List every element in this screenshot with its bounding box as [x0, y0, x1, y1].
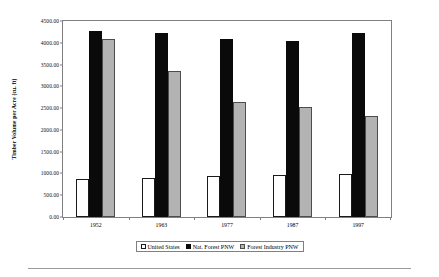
legend-item[interactable]: United States [140, 244, 179, 250]
bar-group: 1952 [63, 21, 129, 217]
legend-label: United States [147, 244, 179, 250]
bar-group-bars [194, 21, 260, 217]
bar[interactable] [76, 179, 89, 217]
x-axis-tick-label: 1987 [287, 222, 299, 228]
bar-group: 1963 [129, 21, 195, 217]
y-axis-tick-label: 3500.00 [41, 62, 59, 68]
legend-swatch-icon [186, 244, 191, 249]
y-axis-tick-label: 0.00 [49, 214, 59, 220]
x-axis-tick-mark [260, 217, 261, 220]
bar-group: 1987 [260, 21, 326, 217]
bar-group-bars [129, 21, 195, 217]
bar-group-bars [325, 21, 391, 217]
y-axis-tick-label: 1500.00 [41, 149, 59, 155]
y-axis-tick-label: 2500.00 [41, 105, 59, 111]
y-axis-tick-label: 500.00 [44, 192, 59, 198]
bar[interactable] [339, 174, 352, 217]
legend-swatch-icon [140, 244, 145, 249]
bar[interactable] [207, 176, 220, 217]
x-axis-tick-mark [63, 217, 64, 220]
x-axis-tick-label: 1977 [221, 222, 233, 228]
x-axis-tick-mark [129, 217, 130, 220]
bar[interactable] [365, 116, 378, 217]
x-axis-tick-label: 1963 [156, 222, 168, 228]
y-axis-title: Timber Volume per Acre (cu. ft) [11, 79, 17, 160]
chart-legend: United StatesNat. Forest PNWForest Indus… [135, 241, 303, 252]
bar[interactable] [89, 31, 102, 217]
legend-item[interactable]: Nat. Forest PNW [186, 244, 235, 250]
plot-area: 0.00500.001000.001500.002000.002500.0030… [62, 20, 392, 218]
bar[interactable] [273, 175, 286, 217]
legend-item[interactable]: Forest Industry PNW [240, 244, 298, 250]
bar[interactable] [286, 41, 299, 217]
bar-group: 1997 [325, 21, 391, 217]
legend-label: Nat. Forest PNW [193, 244, 235, 250]
x-axis-tick-mark [194, 217, 195, 220]
bar[interactable] [220, 39, 233, 217]
legend-label: Forest Industry PNW [247, 244, 298, 250]
y-axis-tick-label: 2000.00 [41, 127, 59, 133]
x-axis-tick-label: 1952 [90, 222, 102, 228]
plot-inner: 0.00500.001000.001500.002000.002500.0030… [63, 21, 391, 217]
x-axis-tick-mark [325, 217, 326, 220]
y-axis-tick-label: 3000.00 [41, 83, 59, 89]
bar[interactable] [352, 33, 365, 217]
bar-group: 1977 [194, 21, 260, 217]
bar[interactable] [168, 71, 181, 217]
y-axis-tick-label: 4000.00 [41, 40, 59, 46]
footer-divider [28, 268, 411, 269]
bar[interactable] [155, 33, 168, 217]
bar-group-bars [63, 21, 129, 217]
y-axis-tick-label: 4500.00 [41, 18, 59, 24]
bar-group-bars [260, 21, 326, 217]
bar[interactable] [299, 107, 312, 217]
x-axis-tick-label: 1997 [352, 222, 364, 228]
x-axis-tick-mark [390, 217, 391, 220]
legend-swatch-icon [240, 244, 245, 249]
bar[interactable] [102, 39, 115, 217]
chart-page: Timber Volume per Acre (cu. ft) 0.00500.… [0, 0, 439, 277]
bar[interactable] [233, 102, 246, 217]
y-axis-tick-label: 1000.00 [41, 170, 59, 176]
bar[interactable] [142, 178, 155, 217]
